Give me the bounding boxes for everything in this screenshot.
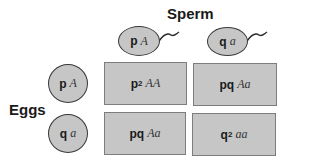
frequency: p [131, 77, 138, 91]
frequency: q [60, 127, 67, 141]
frequency: p [130, 34, 137, 48]
allele: A [141, 34, 148, 49]
egg-gamete-pA: p A [48, 64, 88, 103]
cell-Aa-bottom: pq Aa [104, 112, 186, 155]
egg-gamete-qa: q a [48, 114, 88, 153]
cell-Aa-top: pq Aa [193, 63, 277, 106]
sperm-tail-icon [159, 32, 179, 41]
frequency: q [221, 128, 228, 142]
frequency: pq [129, 127, 144, 141]
genotype: Aa [147, 126, 160, 141]
frequency: pq [219, 78, 234, 92]
sperm-gamete-qa: q a [207, 27, 248, 56]
sperm-gamete-pA: p A [118, 26, 160, 56]
sperm-tail-icon [247, 32, 267, 41]
exponent: 2 [228, 130, 232, 139]
allele: a [70, 126, 76, 141]
cell-AA: p2 AA [104, 62, 187, 105]
genotype: Aa [237, 77, 250, 92]
allele: A [70, 76, 77, 91]
frequency: p [59, 77, 66, 91]
genotype: aa [235, 127, 247, 142]
frequency: q [219, 35, 226, 49]
cell-aa: q2 aa [192, 113, 276, 156]
genotype: AA [146, 76, 161, 91]
exponent: 2 [138, 79, 142, 88]
allele: a [230, 34, 236, 49]
